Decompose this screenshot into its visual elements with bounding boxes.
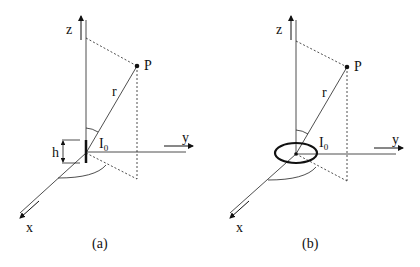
- origin-dot-icon: [294, 152, 298, 156]
- x-arrow-icon: [230, 201, 249, 218]
- x-label: x: [236, 220, 243, 235]
- y-label: y: [392, 132, 399, 147]
- panel-b: z y x P r I0 (b): [230, 16, 403, 252]
- x-label: x: [26, 220, 33, 235]
- current-label: I0: [319, 135, 329, 152]
- r-label: r: [112, 84, 117, 99]
- panel-a: z y x P r I0 h (a): [20, 16, 193, 252]
- p-label: P: [354, 59, 362, 74]
- x-arrow-icon: [20, 201, 39, 218]
- dashed-line: [86, 38, 137, 66]
- point-p-icon: [135, 64, 140, 69]
- current-label: I0: [99, 136, 109, 153]
- z-label: z: [66, 22, 72, 37]
- figure-canvas: z y x P r I0 h (a) z y x: [0, 0, 420, 267]
- caption-b: (b): [302, 236, 319, 252]
- h-label: h: [52, 145, 59, 160]
- r-label: r: [322, 85, 327, 100]
- point-p-icon: [345, 65, 350, 70]
- theta-arc-icon: [296, 130, 308, 134]
- z-label: z: [276, 22, 282, 37]
- dashed-line: [86, 153, 137, 179]
- x-axis: [20, 153, 86, 213]
- y-label: y: [182, 130, 189, 145]
- dashed-line: [296, 154, 347, 181]
- r-vector: [86, 66, 137, 153]
- phi-arc-icon: [268, 167, 316, 180]
- theta-arc-icon: [86, 128, 98, 132]
- p-label: P: [144, 58, 152, 73]
- caption-a: (a): [92, 236, 108, 252]
- dashed-line: [296, 41, 347, 67]
